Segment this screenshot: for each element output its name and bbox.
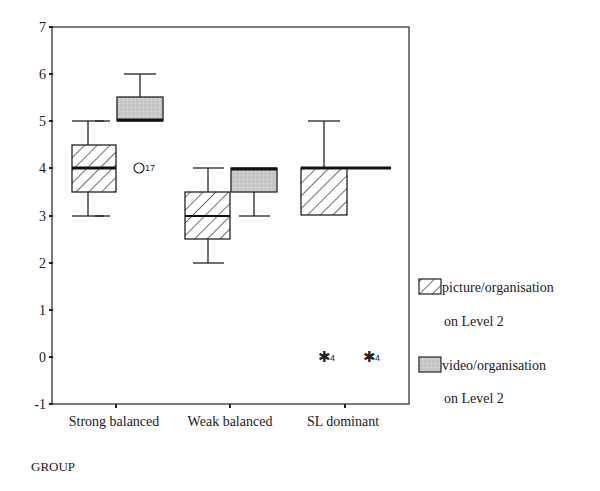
legend: picture/organisation on Level 2 video/or… — [419, 279, 554, 406]
svg-text:✱: ✱ — [363, 348, 376, 365]
y-tick-label: 2 — [39, 256, 46, 271]
category-label-weak-balanced: Weak balanced — [188, 414, 273, 429]
y-tick-label: 6 — [39, 67, 46, 82]
outlier-4-video: ✱ 4 — [363, 348, 381, 365]
svg-text:on Level 2: on Level 2 — [444, 391, 504, 406]
svg-text:17: 17 — [145, 163, 155, 173]
box-strong-balanced-video — [117, 74, 163, 121]
box-weak-balanced-video — [231, 168, 277, 216]
box-strong-balanced-picture — [72, 121, 116, 216]
svg-text:4: 4 — [330, 353, 335, 363]
category-label-sl-dominant: SL dominant — [307, 414, 379, 429]
legend-swatch-gray — [419, 357, 441, 372]
x-category-labels: Strong balanced Weak balanced SL dominan… — [69, 414, 380, 429]
svg-text:✱: ✱ — [318, 348, 331, 365]
y-tick-label: 1 — [39, 303, 46, 318]
y-tick-label: 5 — [39, 114, 46, 129]
x-axis-title: GROUP — [31, 459, 75, 474]
y-tick-labels: 7 6 5 4 3 2 1 0 -1 — [34, 20, 46, 412]
y-tick-label: 3 — [39, 209, 46, 224]
svg-text:video/organisation: video/organisation — [442, 358, 546, 373]
svg-text:picture/organisation: picture/organisation — [442, 280, 554, 295]
outlier-4-picture: ✱ 4 — [318, 348, 336, 365]
svg-text:4: 4 — [375, 353, 380, 363]
y-tick-label: 4 — [39, 161, 46, 176]
y-tick-label: -1 — [34, 397, 46, 412]
legend-swatch-hatched — [419, 279, 441, 294]
box-weak-balanced-picture — [185, 168, 230, 263]
svg-text:on Level 2: on Level 2 — [444, 314, 504, 329]
outlier-17: 17 — [134, 163, 155, 173]
y-tick-label: 0 — [39, 350, 46, 365]
legend-item-picture: picture/organisation on Level 2 — [419, 279, 554, 329]
category-label-strong-balanced: Strong balanced — [69, 414, 160, 429]
legend-item-video: video/organisation on Level 2 — [419, 357, 546, 406]
y-tick-label: 7 — [39, 20, 46, 35]
boxplot-chart: 7 6 5 4 3 2 1 0 -1 Strong balanced Weak … — [0, 0, 600, 491]
